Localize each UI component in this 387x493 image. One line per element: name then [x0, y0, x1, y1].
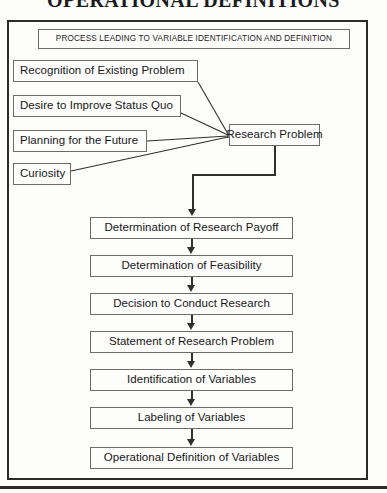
chain-arrow-2 — [187, 285, 195, 292]
chain-arrow-4 — [187, 361, 195, 368]
chain-box-research-payoff[interactable]: Determination of Research Payoff — [90, 217, 293, 239]
process-banner: PROCESS LEADING TO VARIABLE IDENTIFICATI… — [38, 29, 350, 49]
chain-arrow-5 — [187, 399, 195, 406]
source-box-curiosity[interactable]: Curiosity — [13, 163, 71, 185]
chain-box-feasibility[interactable]: Determination of Feasibility — [90, 255, 293, 277]
chain-box-statement[interactable]: Statement of Research Problem — [90, 331, 293, 353]
hub-elbow-line — [192, 174, 276, 176]
chain-box-labeling[interactable]: Labeling of Variables — [90, 407, 293, 429]
hub-drop-line — [274, 146, 276, 175]
chain-arrow-3 — [187, 323, 195, 330]
page-title: OPERATIONAL DEFINITIONS — [0, 0, 387, 11]
chain-box-decision[interactable]: Decision to Conduct Research — [90, 293, 293, 315]
hub-box-research-problem[interactable]: Research Problem — [229, 124, 320, 146]
chain-arrow-6 — [187, 439, 195, 446]
source-box-recognition[interactable]: Recognition of Existing Problem — [13, 60, 198, 82]
source-box-desire[interactable]: Desire to Improve Status Quo — [13, 95, 181, 117]
bottom-rule — [0, 486, 387, 489]
hub-to-chain-arrow — [188, 209, 196, 216]
hub-to-chain-line — [192, 174, 194, 210]
chain-box-operational-definition[interactable]: Operational Definition of Variables — [90, 447, 293, 469]
chain-box-identification[interactable]: Identification of Variables — [90, 369, 293, 391]
chain-arrow-1 — [187, 247, 195, 254]
source-box-planning[interactable]: Planning for the Future — [13, 130, 147, 152]
flowchart-page: OPERATIONAL DEFINITIONS PROCESS LEADING … — [0, 0, 387, 493]
